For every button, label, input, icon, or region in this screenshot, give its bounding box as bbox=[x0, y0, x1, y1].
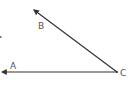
stray-dot bbox=[0, 36, 2, 38]
vertex-point-c bbox=[116, 71, 118, 73]
ray-cb bbox=[34, 10, 117, 72]
label-b: B bbox=[38, 21, 44, 31]
label-a: A bbox=[10, 61, 17, 71]
label-c: C bbox=[120, 68, 126, 78]
angle-diagram: B A C bbox=[0, 0, 135, 88]
